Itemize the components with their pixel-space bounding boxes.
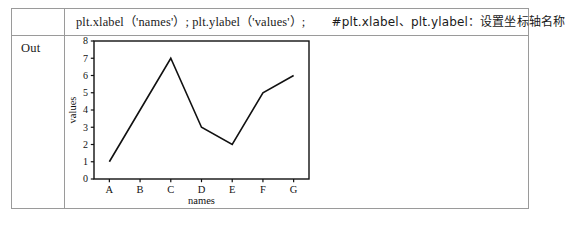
x-tick-label: C	[167, 184, 174, 195]
code-row-content-cell: plt.xlabel（'names'）; plt.ylabel（'values'…	[65, 9, 528, 35]
code-comment: #plt.xlabel、plt.ylabel：设置坐标轴名称	[331, 15, 565, 29]
y-tick-label: 0	[83, 173, 88, 184]
y-tick-label: 5	[83, 87, 88, 98]
y-tick-label: 1	[83, 156, 88, 167]
matplotlib-figure: 012345678 ABCDEFG names values	[65, 36, 335, 210]
plot-area-frame	[94, 41, 309, 179]
output-row-label-cell: Out	[12, 36, 65, 208]
output-row-content-cell: 012345678 ABCDEFG names values	[65, 36, 528, 208]
y-tick-label: 4	[83, 104, 88, 115]
code-statement: plt.xlabel（'names'）; plt.ylabel（'values'…	[76, 15, 305, 29]
y-tick-label: 8	[83, 36, 88, 46]
x-tick-label: A	[106, 184, 114, 195]
y-tick-label: 3	[83, 122, 88, 133]
y-tick-label: 6	[83, 70, 88, 81]
x-tick-label: B	[137, 184, 144, 195]
code-text-line: plt.xlabel（'names'）; plt.ylabel（'values'…	[76, 14, 565, 30]
x-tick-label: F	[260, 184, 266, 195]
line-chart-svg: 012345678 ABCDEFG names values	[65, 36, 335, 210]
y-axis-label: values	[67, 97, 78, 124]
x-tick-label: G	[290, 184, 298, 195]
table-row-code: plt.xlabel（'names'）; plt.ylabel（'values'…	[12, 9, 528, 36]
table-row-output: Out 012345678 ABCDEFG names values	[12, 36, 528, 208]
y-tick-label: 7	[83, 53, 88, 64]
out-label: Out	[21, 41, 40, 55]
code-output-table: plt.xlabel（'names'）; plt.ylabel（'values'…	[11, 8, 529, 209]
x-tick-label: E	[229, 184, 235, 195]
y-tick-label: 2	[83, 139, 88, 150]
code-row-label-cell	[12, 9, 65, 35]
x-tick-label: D	[198, 184, 206, 195]
x-axis-label: names	[188, 195, 215, 206]
y-axis-ticks: 012345678	[83, 36, 94, 184]
x-axis-ticks: ABCDEFG	[106, 179, 298, 195]
